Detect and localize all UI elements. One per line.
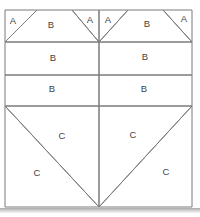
piece-label-top-left-trapezoid: B <box>48 19 54 30</box>
piece-label-bottom-right-lower-triangle: C <box>163 166 170 177</box>
piece-label-bottom-right-upper-triangle: C <box>130 129 137 140</box>
piece-label-top-left-corner-triangle: A <box>10 15 17 26</box>
diagram-canvas: ABAABABBBBCCCC <box>0 0 200 217</box>
pieces-group: ABAABABBBBCCCC <box>5 10 192 207</box>
piece-bottom-right-lower-triangle <box>99 106 192 207</box>
piece-label-top-right-trapezoid: B <box>144 18 150 29</box>
card-bottom-shadow <box>0 208 200 213</box>
piece-top-right-corner-triangle <box>163 10 192 42</box>
piece-label-top-right-corner-triangle: A <box>181 13 188 24</box>
piece-label-row1-right-rectangle: B <box>142 51 148 62</box>
piece-label-row1-left-rectangle: B <box>50 52 56 63</box>
piece-label-top-right-inner-triangle: A <box>105 14 112 25</box>
piece-label-bottom-left-lower-triangle: C <box>34 167 41 178</box>
block-diagram-svg: ABAABABBBBCCCC <box>0 0 200 217</box>
piece-top-left-inner-triangle <box>72 10 99 42</box>
piece-label-bottom-left-upper-triangle: C <box>59 130 66 141</box>
piece-label-row2-right-rectangle: B <box>141 83 147 94</box>
piece-label-top-left-inner-triangle: A <box>87 14 94 25</box>
piece-label-row2-left-rectangle: B <box>49 83 55 94</box>
piece-bottom-left-lower-triangle <box>5 106 99 207</box>
